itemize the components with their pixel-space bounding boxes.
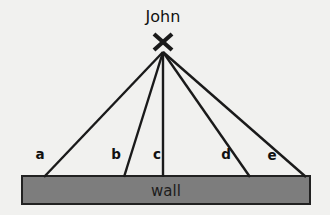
diagram-canvas: John abcde wall: [0, 0, 330, 215]
ray-label-a: a: [35, 146, 44, 162]
ray-label-d: d: [221, 146, 231, 162]
ray-line-a: [44, 52, 163, 177]
observer-label: John: [145, 7, 181, 26]
ray-label-b: b: [111, 146, 121, 162]
ray-line-d: [163, 52, 250, 177]
x-marker: [154, 34, 172, 50]
ray-diagram: John abcde wall: [0, 0, 330, 215]
wall-label: wall: [151, 182, 181, 200]
ray-label-e: e: [267, 147, 276, 163]
ray-line-e: [163, 52, 306, 177]
ray-label-c: c: [153, 146, 161, 162]
